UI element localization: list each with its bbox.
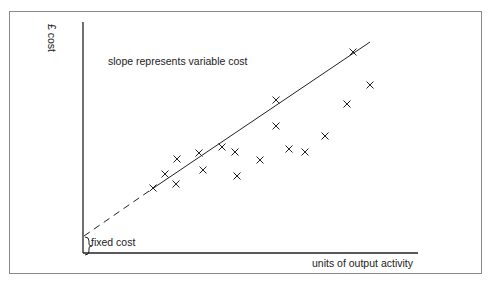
cost-behaviour-chart [0,0,493,288]
y-axis-label: £ cost [46,24,58,52]
extrapolated-line [84,189,152,236]
slope-annotation: slope represents variable cost [108,55,248,67]
x-axis-label: units of output activity [312,257,413,269]
data-points [150,49,374,192]
fixed-cost-annotation: fixed cost [91,236,135,248]
